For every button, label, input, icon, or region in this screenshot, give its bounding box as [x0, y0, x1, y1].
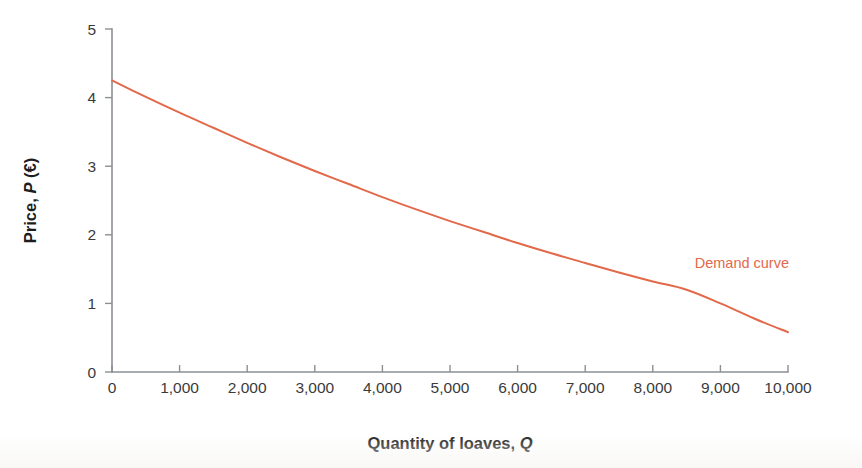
x-axis-title: Quantity of loaves, Q: [367, 434, 532, 452]
x-tick-label: 7,000: [566, 379, 605, 396]
y-tick-label: 2: [87, 226, 96, 243]
y-tick-label: 5: [87, 21, 96, 38]
y-tick-label: 3: [87, 158, 96, 175]
x-tick-label: 3,000: [295, 379, 334, 396]
y-tick-label: 1: [87, 295, 96, 312]
demand-curve-annotation: Demand curve: [695, 255, 789, 271]
x-tick-label: 0: [108, 379, 117, 396]
x-tick-label: 1,000: [160, 379, 199, 396]
x-tick-label: 5,000: [431, 379, 470, 396]
x-tick-label: 9,000: [701, 379, 740, 396]
x-tick-label: 6,000: [498, 379, 537, 396]
x-tick-label: 4,000: [363, 379, 402, 396]
x-tick-label: 2,000: [228, 379, 267, 396]
x-tick-label: 8,000: [633, 379, 672, 396]
chart-background: [0, 0, 862, 468]
demand-curve-chart: 012345 01,0002,0003,0004,0005,0006,0007,…: [0, 0, 862, 468]
y-tick-label: 4: [87, 89, 96, 106]
annotation-group: Demand curve: [695, 255, 789, 271]
x-tick-label: 10,000: [764, 379, 812, 396]
y-axis-title: Price, P (€): [21, 158, 39, 243]
chart-figure: 012345 01,0002,0003,0004,0005,0006,0007,…: [0, 0, 862, 468]
y-tick-label: 0: [87, 364, 96, 381]
